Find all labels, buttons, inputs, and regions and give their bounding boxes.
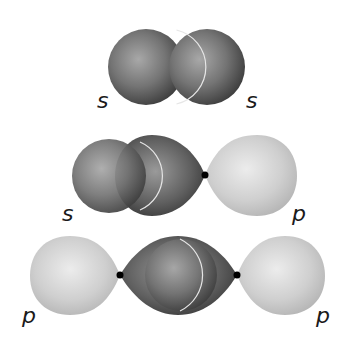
- s-p-overlap: s p: [62, 135, 306, 226]
- p-orbital-lobe-light: [205, 135, 297, 216]
- p-p-overlap: p p: [21, 236, 330, 328]
- label-right: p: [315, 303, 330, 328]
- nucleus-dot-left: [117, 272, 124, 279]
- label-left: p: [21, 303, 36, 328]
- s-s-overlap: s s: [97, 29, 257, 113]
- s-orbital: [72, 139, 146, 213]
- nucleus-dot: [202, 172, 209, 179]
- nucleus-dot-right: [234, 272, 241, 279]
- orbital-overlap-diagram: s s s p p p: [0, 0, 357, 356]
- label-right: p: [291, 201, 306, 226]
- p-orbital-lobe-right-light: [237, 236, 325, 315]
- p-orbital-lobe-left-light: [30, 236, 120, 315]
- label-left: s: [97, 88, 108, 113]
- label-right: s: [246, 88, 257, 113]
- inner-lobe: [145, 239, 217, 311]
- label-left: s: [62, 201, 73, 226]
- s-orbital-right: [169, 29, 245, 105]
